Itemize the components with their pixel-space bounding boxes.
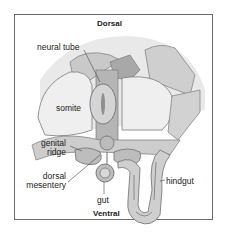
hindgut-label: hindgut — [166, 177, 194, 186]
hindgut-loop — [118, 150, 170, 224]
gut-label: gut — [97, 196, 109, 205]
notochord — [100, 136, 114, 150]
genital-ridge-label: genital ridge — [34, 139, 66, 157]
dorsal-mesentery-label-line2: mesentery — [26, 181, 66, 190]
dorsal-mesentery-label: dorsal mesentery — [26, 172, 66, 190]
ventral-label: Ventral — [93, 210, 120, 218]
lateral-plate-right — [168, 90, 200, 140]
genital-ridge-left — [75, 148, 101, 165]
embryo-cross-section-illustration — [0, 0, 227, 238]
somite-label: somite — [56, 104, 81, 113]
neural-tube-lumen — [101, 93, 105, 115]
gut-lumen — [100, 168, 110, 178]
dorsal-label: Dorsal — [97, 20, 122, 28]
genital-ridge-label-line2: ridge — [34, 148, 66, 157]
neural-tube-label: neural tube — [37, 43, 80, 52]
